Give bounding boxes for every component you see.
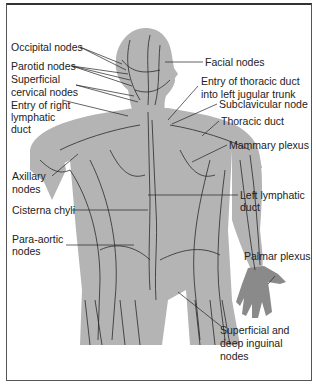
- label-inguinal-nodes-line3: nodes: [220, 350, 249, 362]
- label-subclavicular-node: Subclavicular node: [219, 98, 308, 110]
- label-left-lymphatic-duct-line2: duct: [240, 201, 260, 213]
- label-superficial-cervical-nodes-line1: Superficial: [11, 73, 60, 85]
- label-para-aortic-nodes-line2: nodes: [12, 245, 41, 257]
- label-axillary-nodes-line2: nodes: [12, 183, 41, 195]
- label-entry-right-lymphatic-duct-line1: Entry of right: [11, 99, 71, 111]
- label-cisterna-chyli: Cisterna chyli: [12, 204, 75, 216]
- label-entry-right-lymphatic-duct-line2: lymphatic: [11, 111, 55, 123]
- label-inguinal-nodes-line1: Superficial and: [220, 324, 289, 336]
- label-thoracic-duct: Thoracic duct: [221, 115, 284, 127]
- label-entry-thoracic-duct-line1: Entry of thoracic duct: [201, 75, 300, 87]
- label-mammary-plexus: Mammary plexus: [229, 139, 309, 151]
- label-superficial-cervical-nodes-line2: cervical nodes: [11, 86, 78, 98]
- label-facial-nodes: Facial nodes: [205, 56, 265, 68]
- label-entry-right-lymphatic-duct-line3: duct: [11, 123, 31, 135]
- label-axillary-nodes-line1: Axillary: [12, 170, 46, 182]
- label-parotid-nodes: Parotid nodes: [11, 60, 76, 72]
- label-inguinal-nodes-line2: deep inguinal: [220, 337, 282, 349]
- label-left-lymphatic-duct-line1: Left lymphatic: [240, 189, 305, 201]
- label-occipital-nodes: Occipital nodes: [11, 41, 83, 53]
- label-palmar-plexus: Palmar plexus: [244, 250, 311, 262]
- label-para-aortic-nodes-line1: Para-aortic: [12, 233, 63, 245]
